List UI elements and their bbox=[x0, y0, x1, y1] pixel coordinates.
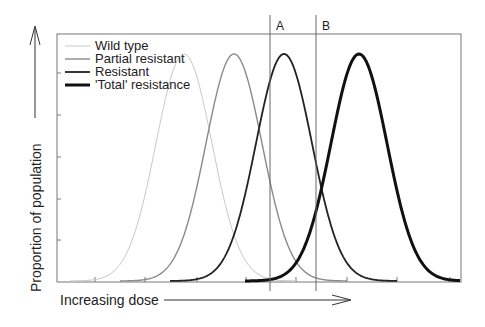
marker-label-b: B bbox=[322, 19, 330, 33]
curve-resistant bbox=[170, 54, 397, 281]
chart-canvas: A B Wild type Partial resistant Resistan… bbox=[0, 0, 485, 327]
marker-label-a: A bbox=[276, 19, 284, 33]
legend-label-total-resistance: 'Total' resistance bbox=[95, 77, 190, 92]
y-axis-ticks bbox=[57, 73, 61, 240]
legend: Wild type Partial resistant Resistant 'T… bbox=[65, 38, 190, 92]
x-axis-label: Increasing dose bbox=[60, 292, 159, 308]
y-axis-label: Proportion of population bbox=[28, 143, 44, 292]
curve-total-resistance bbox=[245, 54, 460, 281]
